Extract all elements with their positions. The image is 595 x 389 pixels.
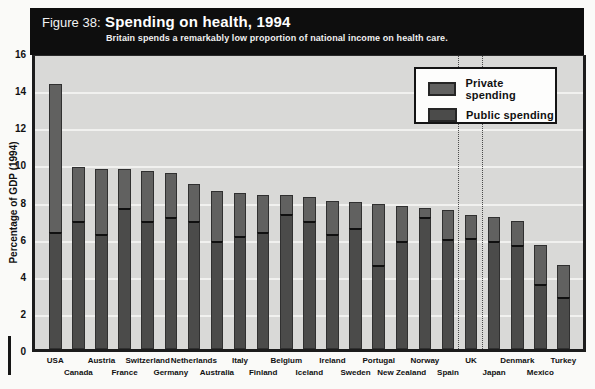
- private-segment: [211, 191, 224, 241]
- legend-row-private: Private spending: [428, 77, 555, 101]
- private-segment: [419, 208, 432, 217]
- public-segment: [280, 214, 293, 350]
- bar-japan: [488, 217, 501, 349]
- y-tick-label-4: 4: [4, 272, 26, 283]
- public-segment: [211, 241, 224, 349]
- gridline-10: [35, 166, 583, 168]
- x-label-turkey: Turkey: [536, 356, 590, 365]
- figure-header: Figure 38: Spending on health, 1994 Brit…: [30, 8, 584, 55]
- private-segment: [372, 204, 385, 265]
- bar-sweden: [349, 202, 362, 349]
- private-segment: [557, 265, 570, 297]
- private-segment: [326, 201, 339, 234]
- y-tick-label-8: 8: [4, 198, 26, 209]
- public-segment: [303, 221, 316, 349]
- public-segment: [49, 232, 62, 349]
- bar-italy: [234, 193, 247, 349]
- public-segment: [465, 238, 478, 349]
- bar-netherlands: [188, 184, 201, 349]
- public-segment: [72, 221, 85, 349]
- public-segment: [419, 217, 432, 349]
- figure-subtitle: Britain spends a remarkably low proporti…: [106, 33, 574, 43]
- y-tick-label-10: 10: [4, 160, 26, 171]
- figure-title-line: Figure 38: Spending on health, 1994: [42, 13, 574, 31]
- private-segment: [118, 169, 131, 208]
- private-segment: [303, 197, 316, 221]
- public-segment: [234, 236, 247, 349]
- bar-new-zealand: [396, 206, 409, 349]
- private-segment: [396, 206, 409, 241]
- y-tick-label-12: 12: [4, 123, 26, 134]
- bar-denmark: [511, 221, 524, 349]
- public-segment: [257, 232, 270, 349]
- private-segment: [49, 84, 62, 233]
- bar-uk: [465, 215, 478, 349]
- bar-iceland: [303, 197, 316, 349]
- private-segment: [511, 221, 524, 245]
- private-segment: [234, 193, 247, 236]
- public-segment: [557, 297, 570, 349]
- legend-row-public: Public spending: [428, 108, 555, 122]
- public-segment: [534, 284, 547, 349]
- public-segment: [511, 245, 524, 349]
- public-segment: [442, 239, 455, 349]
- x-label-mexico: Mexico: [513, 368, 567, 377]
- y-tick-label-14: 14: [4, 86, 26, 97]
- y-tick-label-16: 16: [4, 49, 26, 60]
- public-segment: [188, 221, 201, 349]
- bar-germany: [165, 173, 178, 349]
- public-segment: [118, 208, 131, 349]
- private-segment: [141, 171, 154, 221]
- private-segment: [534, 245, 547, 284]
- private-segment: [257, 195, 270, 232]
- bar-norway: [419, 208, 432, 349]
- legend-label-private: Private spending: [465, 77, 555, 101]
- figure-title: Spending on health, 1994: [105, 13, 291, 30]
- bar-portugal: [372, 204, 385, 349]
- private-segment: [488, 217, 501, 241]
- bar-mexico: [534, 245, 547, 349]
- private-segment: [442, 210, 455, 240]
- gridline-12: [35, 129, 583, 131]
- private-segment: [465, 215, 478, 237]
- public-segment: [141, 221, 154, 349]
- legend: Private spending Public spending: [414, 67, 557, 124]
- bar-turkey: [557, 265, 570, 349]
- bar-australia: [211, 191, 224, 349]
- public-segment: [372, 265, 385, 349]
- figure-number-label: Figure 38:: [42, 15, 101, 30]
- public-segment: [165, 217, 178, 349]
- y-tick-label-0: 0: [4, 346, 26, 357]
- public-segment: [326, 234, 339, 349]
- bar-usa: [49, 84, 62, 349]
- public-segment: [349, 228, 362, 349]
- public-segment: [488, 241, 501, 349]
- bar-canada: [72, 167, 85, 349]
- private-segment: [165, 173, 178, 218]
- legend-label-public: Public spending: [466, 109, 554, 121]
- y-tick-label-6: 6: [4, 235, 26, 246]
- bar-spain: [442, 210, 455, 349]
- private-segment: [349, 202, 362, 228]
- bar-belgium: [280, 195, 293, 349]
- private-segment: [95, 169, 108, 234]
- public-spending-swatch: [428, 108, 457, 122]
- bar-austria: [95, 169, 108, 349]
- public-segment: [396, 241, 409, 349]
- bar-ireland: [326, 201, 339, 350]
- private-segment: [188, 184, 201, 221]
- bar-switzerland: [141, 171, 154, 349]
- y-tick-label-2: 2: [4, 309, 26, 320]
- bar-finland: [257, 195, 270, 349]
- private-spending-swatch: [428, 82, 456, 96]
- private-segment: [72, 167, 85, 221]
- bar-france: [118, 169, 131, 349]
- public-segment: [95, 234, 108, 349]
- private-segment: [280, 195, 293, 214]
